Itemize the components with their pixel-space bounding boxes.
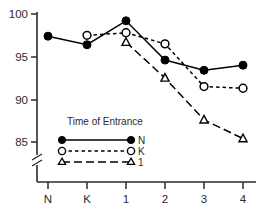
datapoint-K-2 <box>161 40 169 48</box>
datapoint-K-3 <box>200 83 208 91</box>
legend-label-K: K <box>138 146 145 157</box>
datapoint-1-3 <box>200 115 208 123</box>
y-tick-label-100: 100 <box>9 8 28 20</box>
legend-entry-N: N <box>58 135 145 146</box>
datapoint-N-3 <box>200 66 208 74</box>
y-tick-marks <box>31 14 37 142</box>
series-line-1 <box>126 42 243 138</box>
datapoint-N-2 <box>161 56 169 64</box>
x-tick-label-1: 1 <box>123 193 129 205</box>
legend-entry-1: 1 <box>58 157 144 168</box>
x-tick-label-N: N <box>44 193 52 205</box>
x-tick-label-4: 4 <box>240 193 247 205</box>
chart-figure: 100 95 90 85 N K 1 2 3 4 Time of Entranc… <box>0 0 263 210</box>
legend-title: Time of Entrance <box>67 116 143 127</box>
x-tick-marks <box>48 182 243 189</box>
chart-legend: Time of Entrance N K 1 <box>58 116 145 168</box>
legend-entry-K: K <box>58 146 145 157</box>
datapoint-N-N <box>44 32 52 40</box>
datapoint-K-K <box>83 31 91 39</box>
legend-marker-1-end <box>127 158 134 164</box>
datapoint-N-1 <box>122 17 130 25</box>
series-N <box>44 17 247 74</box>
legend-marker-1 <box>58 158 65 164</box>
series-line-N <box>48 21 243 70</box>
x-tick-label-3: 3 <box>201 193 207 205</box>
legend-label-1: 1 <box>138 157 144 168</box>
legend-label-N: N <box>138 135 145 146</box>
x-tick-label-2: 2 <box>162 193 168 205</box>
line-chart: 100 95 90 85 N K 1 2 3 4 Time of Entranc… <box>0 0 263 210</box>
datapoint-N-4 <box>239 61 247 69</box>
datapoint-K-4 <box>239 84 247 92</box>
y-tick-label-95: 95 <box>15 51 28 63</box>
legend-marker-K-end <box>127 147 134 154</box>
datapoint-K-1 <box>122 29 130 37</box>
datapoint-N-K <box>83 41 91 49</box>
y-tick-label-85: 85 <box>15 136 28 148</box>
y-tick-label-90: 90 <box>15 94 28 106</box>
legend-marker-N <box>58 136 65 143</box>
datapoint-1-1 <box>122 38 130 46</box>
x-tick-label-K: K <box>83 193 91 205</box>
x-tick-labels: N K 1 2 3 4 <box>44 193 247 205</box>
legend-marker-N-end <box>127 136 134 143</box>
legend-marker-K <box>58 147 65 154</box>
y-tick-labels: 100 95 90 85 <box>9 8 28 148</box>
